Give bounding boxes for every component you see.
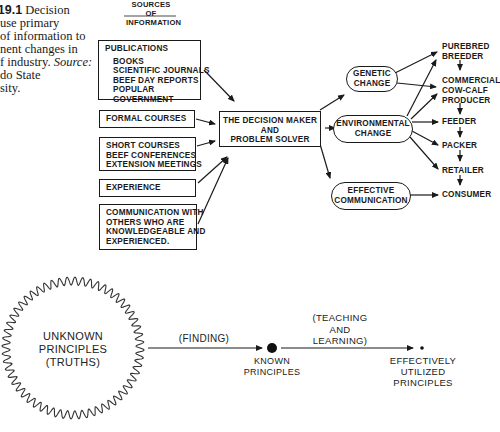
genetic-change-node: GENETIC CHANGE [346, 66, 398, 92]
decision-maker-box: THE DECISION MAKER AND PROBLEM SOLVER [219, 111, 321, 147]
source-box-short-courses: SHORT COURSES BEEF CONFERENCES EXTENSION… [99, 137, 196, 171]
chain-consumer: CONSUMER [442, 190, 491, 200]
chain-purebred-breeder: PUREBRED BREEDER [442, 42, 490, 62]
finding-label: (FINDING) [172, 333, 236, 345]
unknown-principles-label: UNKNOWN PRINCIPLES (TRUTHS) [28, 330, 118, 369]
effective-communication-node: EFFECTIVE COMMUNICATION [331, 182, 411, 210]
known-principles-label: KNOWN PRINCIPLES [240, 356, 304, 378]
environmental-change-node: ENVIRONMENTAL CHANGE [333, 115, 413, 143]
source-box-publications: PUBLICATIONS BOOKS SCIENTIFIC JOURNALS B… [98, 40, 201, 100]
source-box-formal-courses: FORMAL COURSES [99, 110, 195, 128]
source-box-experience: EXPERIENCE [99, 179, 196, 197]
teaching-learning-label: (TEACHING AND LEARNING) [310, 312, 370, 347]
chain-retailer: RETAILER [442, 166, 484, 176]
source-box-communication: COMMUNICATION WITH OTHERS WHO ARE KNOWLE… [99, 204, 197, 250]
chain-commercial-cow-calf-producer: COMMERCIAL COW-CALF PRODUCER [442, 76, 500, 106]
sources-heading: SOURCES OF INFORMATION [126, 0, 176, 27]
chain-packer: PACKER [442, 141, 477, 151]
chain-feeder: FEEDER [442, 117, 476, 127]
effectively-utilized-principles-label: EFFECTIVELY UTILIZED PRINCIPLES [388, 355, 458, 388]
